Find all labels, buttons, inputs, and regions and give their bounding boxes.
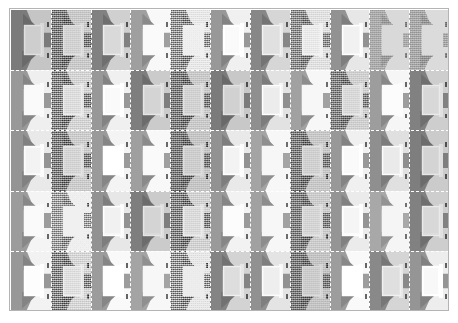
image-tile (250, 191, 290, 251)
image-tile (369, 191, 409, 251)
tile-noise-overlay (369, 10, 409, 70)
image-tile (409, 251, 449, 311)
page-root (0, 0, 458, 323)
image-tile (409, 191, 449, 251)
tile-noise-overlay (51, 251, 91, 311)
image-tile (210, 251, 250, 311)
image-tile (409, 70, 449, 130)
tile-noise-overlay (290, 251, 330, 311)
tile-noise-overlay (170, 10, 210, 70)
tile-noise-overlay (409, 10, 449, 70)
image-tile (91, 130, 131, 190)
image-tile (250, 10, 290, 70)
image-tile (330, 251, 370, 311)
image-tile (130, 10, 170, 70)
tile-noise-overlay (51, 70, 91, 130)
image-tile (330, 10, 370, 70)
image-tile (170, 10, 210, 70)
image-tile (91, 191, 131, 251)
image-tile (11, 191, 51, 251)
image-tile (290, 70, 330, 130)
image-tile (11, 10, 51, 70)
image-tile (290, 251, 330, 311)
image-tile (330, 191, 370, 251)
image-tile (250, 70, 290, 130)
tile-noise-overlay (290, 10, 330, 70)
image-tile (369, 10, 409, 70)
tile-noise-overlay (290, 130, 330, 190)
image-grid-frame (9, 8, 449, 311)
tile-noise-overlay (170, 251, 210, 311)
image-tile (290, 191, 330, 251)
tile-noise-overlay (170, 191, 210, 251)
image-tile (51, 251, 91, 311)
image-tile (170, 191, 210, 251)
tile-noise-overlay (170, 130, 210, 190)
image-tile (170, 251, 210, 311)
image-tile (250, 251, 290, 311)
image-tile (51, 10, 91, 70)
image-tile (11, 70, 51, 130)
tile-noise-overlay (51, 10, 91, 70)
image-tile (130, 191, 170, 251)
image-tile (250, 130, 290, 190)
image-tile (170, 70, 210, 130)
tile-noise-overlay (290, 191, 330, 251)
image-tile (170, 130, 210, 190)
tile-noise-overlay (330, 70, 370, 130)
image-tile (91, 70, 131, 130)
image-tile (290, 130, 330, 190)
image-tile (51, 70, 91, 130)
tile-noise-overlay (170, 70, 210, 130)
image-tile (51, 191, 91, 251)
image-tile (409, 130, 449, 190)
image-tile (91, 10, 131, 70)
image-tile (130, 70, 170, 130)
image-tile (210, 191, 250, 251)
image-tile (290, 10, 330, 70)
image-tile (369, 130, 409, 190)
image-tile (330, 130, 370, 190)
image-tile (210, 10, 250, 70)
tile-noise-overlay (51, 130, 91, 190)
image-tile (330, 70, 370, 130)
image-tile (210, 70, 250, 130)
image-tile (11, 130, 51, 190)
image-grid (11, 10, 449, 311)
image-tile (409, 10, 449, 70)
tile-noise-overlay (51, 191, 91, 251)
image-tile (11, 251, 51, 311)
image-tile (210, 130, 250, 190)
image-tile (369, 70, 409, 130)
image-tile (91, 251, 131, 311)
image-tile (369, 251, 409, 311)
image-tile (130, 251, 170, 311)
image-tile (51, 130, 91, 190)
image-tile (130, 130, 170, 190)
